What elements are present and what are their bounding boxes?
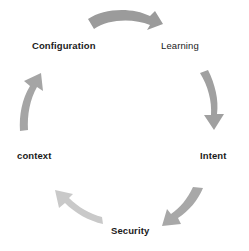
node-label-learning: Learning [161,40,199,52]
node-label-intent: Intent [200,150,226,162]
arrow-context-to-configuration [20,73,43,131]
arrow-intent-to-security [162,187,203,226]
node-label-configuration: Configuration [32,40,96,52]
cycle-diagram-canvas: Configuration Learning Intent Security c… [0,0,249,251]
cycle-arrows-group [0,0,249,251]
node-label-context: context [17,150,51,162]
arrow-configuration-to-learning [88,10,163,30]
node-label-security: Security [111,225,149,237]
arrow-learning-to-intent [200,70,224,130]
arrow-security-to-context [55,190,103,224]
